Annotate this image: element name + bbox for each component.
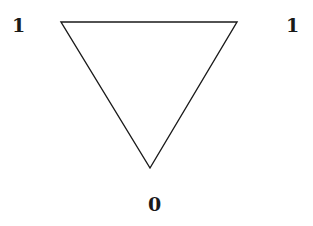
label-top-right: 1 — [286, 16, 299, 35]
label-bottom: 0 — [148, 195, 161, 214]
label-top-left: 1 — [12, 16, 25, 35]
inverted-triangle — [61, 22, 237, 168]
